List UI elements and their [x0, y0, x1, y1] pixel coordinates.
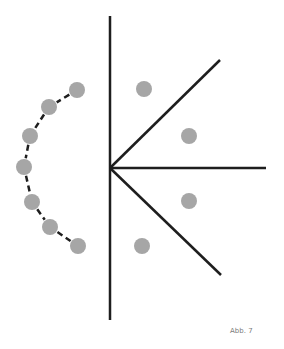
dashed-connector — [26, 145, 29, 158]
arc-dot — [42, 219, 58, 235]
ray-line — [110, 168, 221, 275]
right-dot — [181, 128, 197, 144]
arc-dot — [41, 99, 57, 115]
right-dot — [134, 238, 150, 254]
arc-dashes — [26, 95, 71, 241]
ray-line — [110, 60, 220, 168]
right-dot — [136, 81, 152, 97]
figure-caption: Abb. 7 — [230, 327, 253, 335]
dashed-connector — [57, 95, 70, 103]
arc-dot — [16, 159, 32, 175]
dashed-connector — [35, 115, 44, 129]
diagram-canvas — [0, 0, 284, 349]
arc-dots — [16, 82, 86, 254]
arc-dot — [69, 82, 85, 98]
dashed-connector — [37, 209, 44, 219]
arc-dot — [70, 238, 86, 254]
arc-dot — [24, 194, 40, 210]
right-dot — [181, 193, 197, 209]
dashed-connector — [26, 176, 30, 193]
arc-dot — [22, 128, 38, 144]
rays — [110, 60, 266, 275]
dashed-connector — [57, 232, 70, 241]
